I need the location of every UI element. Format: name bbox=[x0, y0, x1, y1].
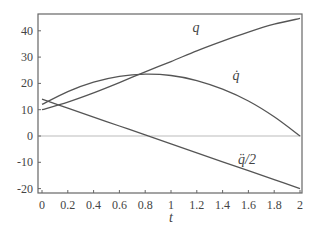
x-tick-label: 0.8 bbox=[138, 198, 153, 212]
label-q: q bbox=[193, 20, 200, 35]
label-q-ddot-half: q̈/2 bbox=[238, 152, 256, 167]
x-tick-label: 2 bbox=[297, 198, 303, 212]
x-tick-label: 1.8 bbox=[267, 198, 282, 212]
x-tick-label: 1.2 bbox=[189, 198, 204, 212]
y-tick-label: 40 bbox=[21, 24, 33, 38]
x-axis-label: t bbox=[169, 210, 174, 225]
x-tick-label: 0.6 bbox=[112, 198, 127, 212]
y-tick-label: 30 bbox=[21, 50, 33, 64]
y-tick-label: -20 bbox=[17, 182, 33, 196]
curve-q-ddot-half bbox=[42, 99, 300, 188]
x-tick-label: 0 bbox=[39, 198, 45, 212]
plot-frame bbox=[38, 14, 302, 193]
y-tick-label: -10 bbox=[17, 155, 33, 169]
curve-q-dot bbox=[42, 74, 300, 136]
label-q-dot: q̇ bbox=[233, 68, 240, 83]
x-tick-label: 1.4 bbox=[215, 198, 230, 212]
chart: -20-1001020304000.20.40.60.811.21.41.61.… bbox=[0, 0, 321, 236]
y-tick-label: 10 bbox=[21, 103, 33, 117]
y-tick-label: 20 bbox=[21, 76, 33, 90]
y-tick-label: 0 bbox=[27, 129, 33, 143]
x-tick-label: 0.2 bbox=[60, 198, 75, 212]
curve-q bbox=[42, 18, 300, 109]
x-tick-label: 1.6 bbox=[241, 198, 256, 212]
x-tick-label: 0.4 bbox=[86, 198, 101, 212]
